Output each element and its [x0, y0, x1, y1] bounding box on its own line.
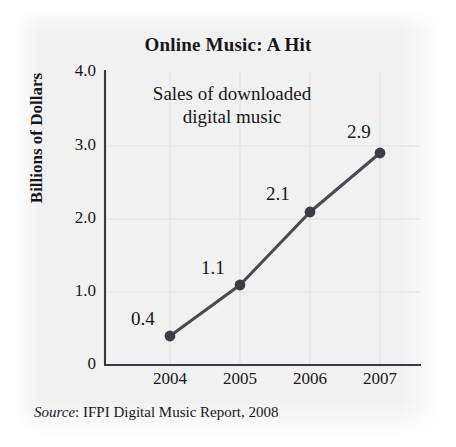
source-label: Source [34, 404, 75, 420]
chart-subtitle-line2: digital music [183, 106, 282, 127]
x-tick-2007: 2007 [345, 369, 415, 389]
y-tick-1: 1.0 [44, 281, 96, 301]
y-tick-2: 2.0 [44, 208, 96, 228]
data-point-2006 [305, 207, 316, 218]
x-tick-2004: 2004 [135, 369, 205, 389]
data-label-2004: 0.4 [131, 308, 155, 330]
y-tick-4: 4.0 [44, 61, 96, 81]
chart-subtitle-line1: Sales of downloaded [153, 83, 311, 104]
data-point-2004 [165, 331, 176, 342]
y-tick-0: 0 [44, 354, 96, 374]
data-label-2006: 2.1 [266, 183, 290, 205]
data-point-2005 [235, 280, 246, 291]
x-tick-2006: 2006 [275, 369, 345, 389]
source-note: Source: IFPI Digital Music Report, 2008 [34, 404, 278, 421]
chart-figure: Online Music: A Hit Bil [0, 0, 456, 447]
source-text: : IFPI Digital Music Report, 2008 [75, 404, 278, 420]
horizontal-gridlines [105, 146, 420, 292]
data-label-2007: 2.9 [347, 121, 371, 143]
x-tick-2005: 2005 [205, 369, 275, 389]
chart-subtitle: Sales of downloaded digital music [112, 82, 352, 128]
data-label-2005: 1.1 [201, 257, 225, 279]
series-line [170, 153, 380, 336]
y-tick-3: 3.0 [44, 135, 96, 155]
data-point-2007 [375, 148, 386, 159]
